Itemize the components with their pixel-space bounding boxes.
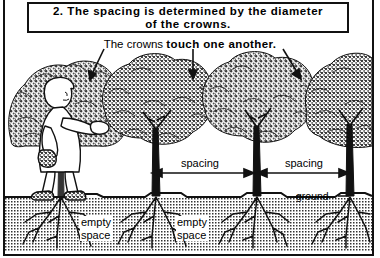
spacing-label-2: spacing [285, 157, 323, 169]
empty-space-label-2: empty space [176, 216, 208, 241]
tree-crown-4 [305, 53, 372, 147]
empty-space-label-1: empty space [80, 216, 112, 241]
spacing-arrow-2 [257, 169, 349, 177]
empty-space-label-1-line2: space [81, 229, 111, 242]
spacing-arrows [152, 169, 349, 177]
ground-label: ground [296, 190, 329, 202]
subtitle: The crowns touch one another. [0, 37, 380, 51]
title-line-2: of the crowns. [145, 18, 231, 31]
subtitle-plain-text: The crowns [104, 38, 167, 50]
empty-space-label-2-line2: space [177, 229, 207, 242]
empty-space-label-2-line1: empty [177, 216, 207, 229]
empty-space-label-1-line1: empty [81, 216, 111, 229]
spacing-label-1: spacing [181, 157, 219, 169]
spacing-arrow-1 [152, 169, 254, 177]
title-box: 2. The spacing is determined by the diam… [27, 2, 349, 33]
subtitle-bold-text: touch one another. [166, 38, 276, 50]
figure-root: spacing spacing ground empty space empty… [0, 0, 380, 258]
title-line-1: 2. The spacing is determined by the diam… [53, 5, 323, 18]
